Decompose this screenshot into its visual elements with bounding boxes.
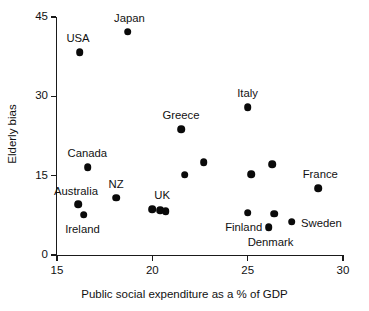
data-point: [314, 185, 322, 193]
x-axis-title: Public social expenditure as a % of GDP: [0, 288, 369, 300]
data-point: [288, 218, 296, 226]
data-point: [162, 207, 170, 215]
data-point: [265, 224, 273, 232]
data-point-label: Denmark: [248, 237, 294, 248]
data-point: [248, 170, 256, 178]
data-point-label: Australia: [54, 186, 98, 197]
data-point: [181, 171, 189, 179]
data-point-label: Japan: [114, 13, 145, 24]
data-point-label: France: [303, 169, 338, 180]
data-point-label: UK: [154, 190, 170, 201]
data-point-label: Greece: [162, 110, 199, 121]
data-point: [76, 48, 84, 56]
plot-area: USAJapanCanadaAustraliaIrelandNZUKGreece…: [0, 0, 369, 311]
data-point: [200, 159, 208, 167]
data-point-label: Ireland: [65, 224, 100, 235]
data-point: [271, 210, 279, 218]
data-point: [269, 160, 277, 168]
data-point: [244, 103, 252, 111]
data-point: [74, 200, 82, 208]
data-point: [124, 28, 132, 36]
data-point: [177, 125, 185, 133]
y-axis-title: Elderly bias: [6, 84, 18, 184]
data-point-label: Canada: [68, 148, 108, 159]
data-point: [112, 194, 120, 202]
data-point: [149, 205, 157, 213]
data-point: [80, 211, 88, 219]
data-point-label: Italy: [237, 88, 258, 99]
scatter-chart: 015304515202530 USAJapanCanadaAustraliaI…: [0, 0, 369, 311]
data-point-label: NZ: [109, 179, 124, 190]
data-point-label: Sweden: [301, 218, 342, 229]
data-point: [84, 163, 92, 171]
data-point-label: Finland: [225, 222, 262, 233]
data-point-label: USA: [66, 33, 89, 44]
data-point: [244, 209, 252, 217]
